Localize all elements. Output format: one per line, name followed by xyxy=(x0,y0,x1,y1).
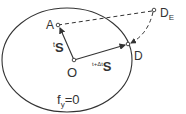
label-s-t: tS xyxy=(53,40,64,55)
point-o xyxy=(72,58,76,62)
point-d xyxy=(126,42,130,46)
point-a xyxy=(56,23,60,27)
label-yield-function: fy=0 xyxy=(57,92,79,109)
vector-s-t-dt xyxy=(74,45,125,60)
label-d: D xyxy=(134,49,143,63)
label-a: A xyxy=(46,18,54,32)
dashed-return-path xyxy=(131,12,153,43)
label-o: O xyxy=(67,65,77,80)
yield-surface-diagram: A O D DE tS t+ΔtS fy=0 xyxy=(0,0,186,114)
label-s-t-dt: t+ΔtS xyxy=(92,59,112,74)
point-de xyxy=(152,8,156,12)
label-de: DE xyxy=(160,6,174,22)
